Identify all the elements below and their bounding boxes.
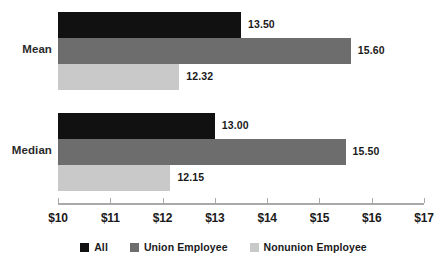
category-label-mean: Mean bbox=[0, 43, 52, 55]
bar-value-mean-all: 13.50 bbox=[248, 18, 275, 30]
legend-swatch-nonunion-employee bbox=[250, 243, 259, 252]
plot-area: Mean13.5015.6012.32Median13.0015.5012.15… bbox=[0, 0, 447, 200]
legend-swatch-all bbox=[80, 243, 89, 252]
bar-value-median-union-employee: 15.50 bbox=[353, 145, 380, 157]
x-axis-tick-14 bbox=[267, 198, 268, 203]
legend-item-union-employee: Union Employee bbox=[130, 241, 228, 253]
x-axis-tick-label-10: $10 bbox=[38, 211, 78, 225]
x-axis-tick-label-16: $16 bbox=[352, 211, 392, 225]
x-axis-tick-12 bbox=[163, 198, 164, 203]
x-axis-tick-15 bbox=[319, 198, 320, 203]
bar-value-mean-union-employee: 15.60 bbox=[358, 44, 385, 56]
x-axis-tick-16 bbox=[372, 198, 373, 203]
legend-label-all: All bbox=[94, 241, 108, 253]
legend-item-all: All bbox=[80, 241, 108, 253]
x-axis-line bbox=[58, 203, 424, 205]
x-axis-tick-label-11: $11 bbox=[90, 211, 130, 225]
bar-mean-nonunion-employee bbox=[58, 64, 179, 90]
x-axis-tick-10 bbox=[58, 198, 59, 203]
x-axis-tick-label-12: $12 bbox=[143, 211, 183, 225]
bar-median-nonunion-employee bbox=[58, 165, 170, 191]
bar-chart: Mean13.5015.6012.32Median13.0015.5012.15… bbox=[0, 0, 447, 270]
x-axis-tick-17 bbox=[424, 198, 425, 203]
legend-label-nonunion-employee: Nonunion Employee bbox=[264, 241, 367, 253]
x-axis-tick-11 bbox=[110, 198, 111, 203]
x-axis-tick-label-13: $13 bbox=[195, 211, 235, 225]
chart-legend: AllUnion EmployeeNonunion Employee bbox=[0, 241, 447, 253]
legend-item-nonunion-employee: Nonunion Employee bbox=[250, 241, 367, 253]
bar-mean-all bbox=[58, 12, 241, 38]
legend-label-union-employee: Union Employee bbox=[144, 241, 228, 253]
bar-mean-union-employee bbox=[58, 38, 351, 64]
x-axis-tick-label-17: $17 bbox=[404, 211, 444, 225]
bar-value-median-nonunion-employee: 12.15 bbox=[177, 171, 204, 183]
category-label-median: Median bbox=[0, 144, 52, 156]
x-axis-tick-13 bbox=[215, 198, 216, 203]
bar-median-union-employee bbox=[58, 139, 346, 165]
bar-value-median-all: 13.00 bbox=[222, 119, 249, 131]
legend-swatch-union-employee bbox=[130, 243, 139, 252]
bar-value-mean-nonunion-employee: 12.32 bbox=[186, 70, 213, 82]
bar-median-all bbox=[58, 113, 215, 139]
x-axis-tick-label-14: $14 bbox=[247, 211, 287, 225]
x-axis-tick-label-15: $15 bbox=[299, 211, 339, 225]
